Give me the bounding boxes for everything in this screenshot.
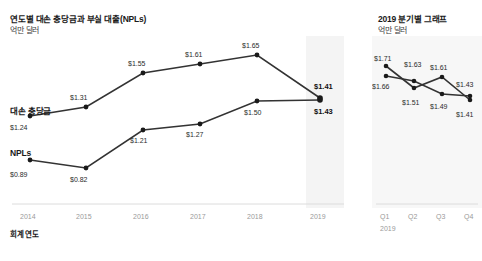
data-point-npls-2019 <box>317 97 323 103</box>
right-data-point-provisions-q3 <box>440 75 445 80</box>
right-value-label-provisions-q3: $1.61 <box>430 64 448 71</box>
quarterly-chart-panel: 2019 분기별 그래프 억만 달러 $1.71 $1.51 $1.61 $1.… <box>372 0 482 261</box>
value-label-npls-2017: $1.27 <box>186 131 204 138</box>
value-label-npls-2016: $1.21 <box>130 137 148 144</box>
value-label-provisions-2018: $1.65 <box>242 42 260 49</box>
right-value-label-provisions-q1: $1.71 <box>374 55 392 62</box>
value-label-provisions-2015: $1.31 <box>70 94 88 101</box>
right-data-point-provisions-q1 <box>384 64 389 69</box>
x-tick-2015: 2015 <box>76 213 92 220</box>
quarterly-chart-svg: $1.71 $1.51 $1.61 $1.41 $1.66 $1.63 $1.4… <box>372 36 482 226</box>
annual-line-chart: $1.24 $1.31 $1.55 $1.61 $1.65 $1.41 $0.8… <box>0 36 358 226</box>
series-line-npls <box>30 100 320 168</box>
data-point-npls-2017 <box>198 122 203 127</box>
x-tick-2019: 2019 <box>310 213 326 220</box>
right-data-point-provisions-q4 <box>468 98 473 103</box>
value-label-provisions-2019: $1.41 <box>314 82 333 91</box>
value-label-npls-2015: $0.82 <box>70 176 88 183</box>
right-data-point-provisions-q2 <box>412 86 417 91</box>
right-value-label-provisions-q4: $1.41 <box>456 111 474 118</box>
value-label-npls-2018: $1.50 <box>244 109 262 116</box>
data-point-npls-2016 <box>141 128 146 133</box>
series-label-npls: NPLs <box>10 148 31 158</box>
annual-chart-panel: 연도별 대손 충당금과 부실 대출(NPLs) 억만 달러 $1.24 $1.3… <box>0 0 358 261</box>
x-tick-2014: 2014 <box>20 213 36 220</box>
footnote-clipped <box>190 251 320 259</box>
x-tick-2017: 2017 <box>190 213 206 220</box>
x-tick-2016: 2016 <box>133 213 149 220</box>
annual-chart-svg: $1.24 $1.31 $1.55 $1.61 $1.65 $1.41 $0.8… <box>0 36 358 226</box>
value-label-npls-2014: $0.89 <box>10 171 28 178</box>
right-chart-title: 2019 분기별 그래프 <box>378 12 447 24</box>
series-label-provisions: 대손 충당금 <box>10 106 51 116</box>
right-data-point-npls-q3 <box>440 92 445 97</box>
data-point-npls-2018 <box>255 99 260 104</box>
right-value-label-npls-q3: $1.49 <box>430 103 448 110</box>
value-label-provisions-2017: $1.61 <box>185 51 203 58</box>
quarterly-line-chart: $1.71 $1.51 $1.61 $1.41 $1.66 $1.63 $1.4… <box>372 36 482 226</box>
value-label-npls-2019: $1.43 <box>314 107 333 116</box>
right-data-point-npls-q1 <box>384 74 389 79</box>
highlight-band-2019 <box>306 36 344 208</box>
data-point-npls-2015 <box>84 166 89 171</box>
right-chart-subtitle: 억만 달러 <box>378 24 407 35</box>
value-label-provisions-2014: $1.24 <box>10 124 28 131</box>
left-chart-subtitle: 억만 달러 <box>10 24 39 35</box>
data-point-provisions-2016 <box>141 71 146 76</box>
right-x-tick-q3: Q3 <box>436 213 445 221</box>
series-line-provisions <box>30 55 320 116</box>
data-point-provisions-2017 <box>198 62 203 67</box>
x-axis-title: 회계 연도 <box>10 228 39 239</box>
left-chart-title: 연도별 대손 충당금과 부실 대출(NPLs) <box>10 12 146 24</box>
right-x-tick-q1: Q1 <box>380 213 389 221</box>
right-value-label-npls-q1: $1.66 <box>372 83 390 90</box>
right-x-tick-q4: Q4 <box>464 213 473 221</box>
right-value-label-npls-q4: $1.43 <box>456 81 474 88</box>
data-point-provisions-2015 <box>84 105 89 110</box>
data-point-provisions-2018 <box>255 53 260 58</box>
right-data-point-npls-q2 <box>412 79 417 84</box>
data-point-npls-2014 <box>28 158 33 163</box>
right-x-tick-q2: Q2 <box>408 213 417 221</box>
value-label-provisions-2016: $1.55 <box>128 60 146 67</box>
right-value-label-npls-q2: $1.63 <box>404 61 422 68</box>
right-x-axis-year-label: 2019 <box>380 225 396 232</box>
right-value-label-provisions-q2: $1.51 <box>402 99 420 106</box>
right-data-point-npls-q4 <box>468 94 473 99</box>
x-tick-2018: 2018 <box>247 213 263 220</box>
